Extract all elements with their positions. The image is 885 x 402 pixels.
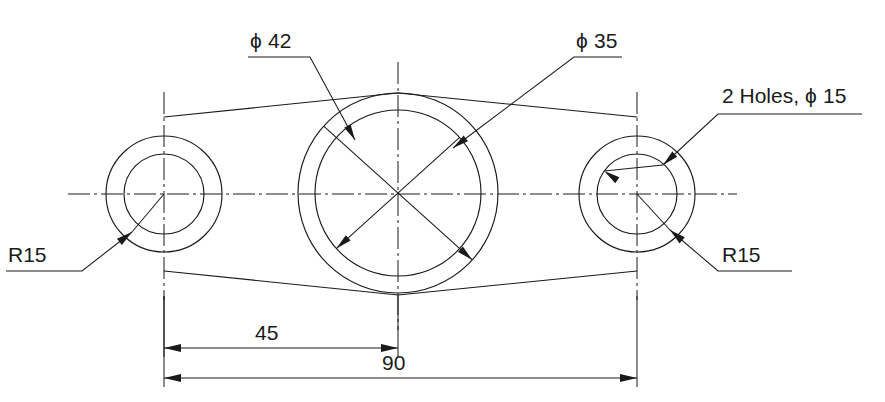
dim-90-value: 90 — [382, 351, 405, 374]
dim-90-arrow-right — [620, 374, 637, 382]
two-holes-phi-symbol: ϕ — [805, 84, 817, 107]
right-hole-diameter-arrow — [604, 171, 619, 183]
dim-90-arrow-left — [164, 374, 181, 382]
r15-right-arrowhead — [670, 230, 685, 243]
two-holes-prefix: 2 Holes, — [722, 84, 799, 107]
center-boss-group — [298, 62, 498, 330]
r15-right-label: R15 — [722, 243, 761, 266]
phi42-arrowhead — [344, 124, 355, 140]
two-holes-annotation: 2 Holes, ϕ 15 — [663, 84, 862, 165]
linear-dimensions-group: 4590 — [164, 296, 637, 387]
dim-45-value: 45 — [255, 321, 278, 344]
two-holes-leader-line — [663, 114, 862, 165]
bottom-left-tangent — [164, 271, 398, 295]
r15-left-arrowhead — [117, 232, 132, 245]
r15-right-radius-line — [637, 194, 670, 230]
left-boss-group — [106, 92, 222, 300]
right-hole-diameter-line — [604, 165, 663, 171]
dim-45: 45 — [164, 296, 398, 357]
r15-right-annotation: R15 — [637, 194, 792, 271]
bottom-right-tangent — [398, 271, 637, 295]
right-boss-group — [579, 92, 695, 300]
phi35-phi-symbol: ϕ — [576, 29, 588, 52]
technical-drawing-canvas: ϕ 42 ϕ 35 2 Holes, ϕ 15 — [0, 0, 885, 402]
top-left-tangent — [164, 93, 398, 117]
r15-left-annotation: R15 — [6, 194, 164, 271]
phi35-value: 35 — [594, 29, 617, 52]
dim-90: 90 — [164, 296, 637, 387]
phi42-value: 42 — [268, 29, 291, 52]
phi42-annotation: ϕ 42 — [248, 29, 355, 140]
two-holes-value: 15 — [823, 84, 846, 107]
phi42-phi-symbol: ϕ — [250, 29, 262, 52]
drawing-svg: ϕ 42 ϕ 35 2 Holes, ϕ 15 — [0, 0, 885, 402]
right-hole-diameter — [604, 165, 663, 183]
dim-45-arrow-left — [164, 344, 181, 352]
r15-left-label: R15 — [8, 243, 47, 266]
top-right-tangent — [398, 93, 637, 117]
phi35-annotation: ϕ 35 — [453, 29, 622, 148]
r15-left-radius-line — [132, 194, 164, 232]
